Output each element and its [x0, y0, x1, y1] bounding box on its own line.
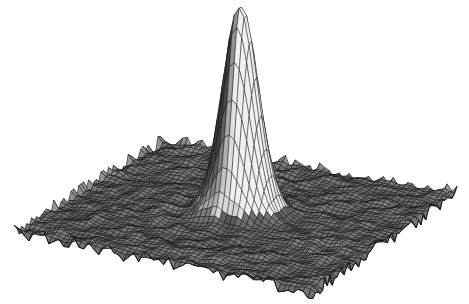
- surface-plot: [0, 0, 469, 304]
